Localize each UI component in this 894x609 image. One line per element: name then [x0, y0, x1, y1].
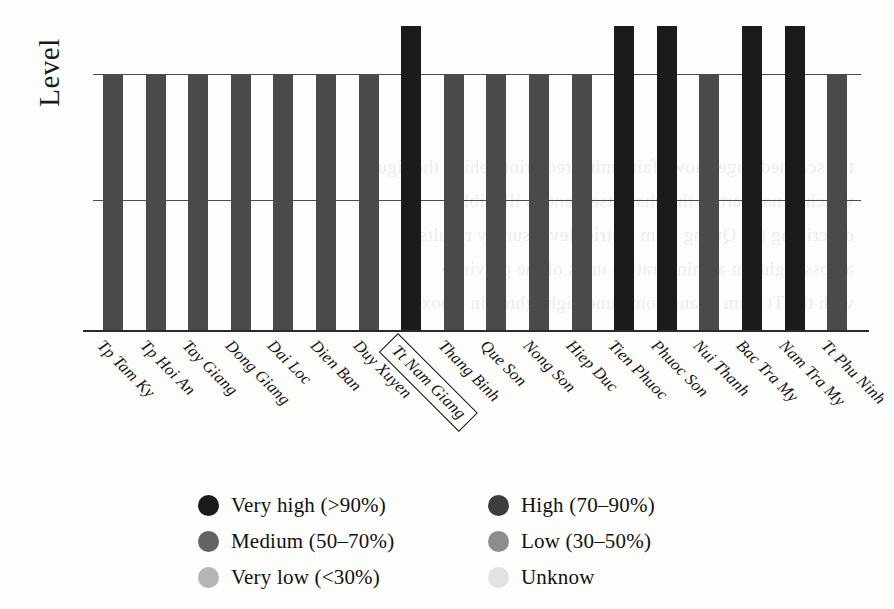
bar-chart-figure: Level Tp Tam KyTp Hoi AnTay GiangDong Gi…: [0, 0, 894, 609]
legend-item: Low (30–50%): [488, 529, 698, 554]
bar: [103, 74, 123, 330]
legend-label: Low (30–50%): [521, 529, 651, 554]
bar: [827, 74, 847, 330]
bar: [486, 74, 506, 330]
bar: [188, 74, 208, 330]
legend-item: High (70–90%): [488, 493, 698, 518]
bar: [785, 26, 805, 330]
x-axis-tick-labels: Tp Tam KyTp Hoi AnTay GiangDong GiangDai…: [93, 336, 883, 486]
legend-label: Very high (>90%): [231, 493, 386, 518]
legend-swatch-circle-icon: [488, 531, 509, 552]
bar: [273, 74, 293, 330]
legend-item: Medium (50–70%): [198, 529, 488, 554]
bar: [231, 74, 251, 330]
legend-swatch-circle-icon: [488, 567, 509, 588]
chart-legend: Very high (>90%)High (70–90%)Medium (50–…: [198, 487, 698, 595]
bar: [657, 26, 677, 330]
legend-swatch-circle-icon: [198, 495, 219, 516]
legend-item: Very high (>90%): [198, 493, 488, 518]
legend-swatch-circle-icon: [488, 495, 509, 516]
legend-item: Unknow: [488, 565, 698, 590]
plot-area: [93, 8, 861, 332]
legend-label: High (70–90%): [521, 493, 655, 518]
bar: [572, 74, 592, 330]
bar: [699, 74, 719, 330]
legend-swatch-circle-icon: [198, 531, 219, 552]
bar: [529, 74, 549, 330]
bar: [444, 74, 464, 330]
legend-label: Unknow: [521, 565, 595, 590]
bar: [359, 74, 379, 330]
bar-series: [93, 8, 861, 332]
legend-item: Very low (<30%): [198, 565, 488, 590]
bar: [401, 26, 421, 330]
bar: [316, 74, 336, 330]
legend-swatch-circle-icon: [198, 567, 219, 588]
bar: [742, 26, 762, 330]
legend-label: Very low (<30%): [231, 565, 380, 590]
bar: [614, 26, 634, 330]
bar: [146, 74, 166, 330]
y-axis-title: Level: [33, 8, 66, 138]
legend-label: Medium (50–70%): [231, 529, 394, 554]
